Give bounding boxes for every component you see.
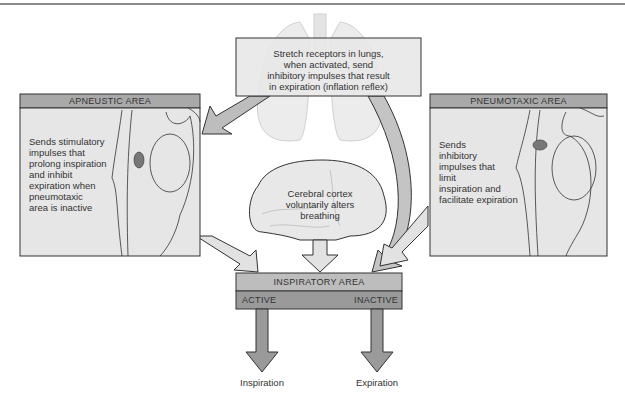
cerebral-cortex-text: Cerebral cortex voluntarily alters breat… bbox=[270, 188, 370, 221]
text-line: limit bbox=[439, 172, 518, 183]
text-line: when activated, send bbox=[236, 59, 421, 70]
text-line: and inhibit bbox=[29, 169, 107, 180]
apneustic-area-title: APNEUSTIC AREA bbox=[20, 96, 200, 106]
text-line: expiration when bbox=[29, 180, 107, 191]
stretch-receptors-text: Stretch receptors in lungs, when activat… bbox=[236, 48, 421, 92]
text-line: in expiration (inflation reflex) bbox=[236, 81, 421, 92]
text-line: Cerebral cortex bbox=[270, 188, 370, 199]
pneumotaxic-area-title: PNEUMOTAXIC AREA bbox=[430, 96, 607, 106]
text-line: Sends stimulatory bbox=[29, 136, 107, 147]
text-line: prolong inspiration bbox=[29, 158, 107, 169]
text-line: inhibitory impulses that result bbox=[236, 70, 421, 81]
text-line: impulses that bbox=[439, 161, 518, 172]
text-line: pneumotaxic bbox=[29, 191, 107, 202]
inactive-label: INACTIVE bbox=[340, 295, 398, 305]
text-line: breathing bbox=[270, 210, 370, 221]
text-line: Sends bbox=[439, 139, 518, 150]
text-line: inhibitory bbox=[439, 150, 518, 161]
text-line: impulses that bbox=[29, 147, 107, 158]
text-line: inspiration and bbox=[439, 183, 518, 194]
inspiration-label: Inspiration bbox=[232, 377, 292, 388]
expiration-label: Expiration bbox=[347, 377, 407, 388]
arrow-expiration bbox=[361, 309, 393, 372]
text-line: voluntarily alters bbox=[270, 199, 370, 210]
arrow-cortex-to-inspiratory bbox=[302, 240, 338, 272]
text-line: facilitate expiration bbox=[439, 194, 518, 205]
inspiratory-area-title: INSPIRATORY AREA bbox=[236, 277, 402, 287]
apneustic-description: Sends stimulatory impulses that prolong … bbox=[29, 136, 107, 213]
active-label: ACTIVE bbox=[242, 295, 276, 305]
arrow-apneustic-to-inspiratory bbox=[196, 236, 258, 272]
text-line: area is inactive bbox=[29, 202, 107, 213]
pneumotaxic-description: Sends inhibitory impulses that limit ins… bbox=[439, 139, 518, 205]
arrow-inspiration bbox=[246, 309, 278, 372]
text-line: Stretch receptors in lungs, bbox=[236, 48, 421, 59]
